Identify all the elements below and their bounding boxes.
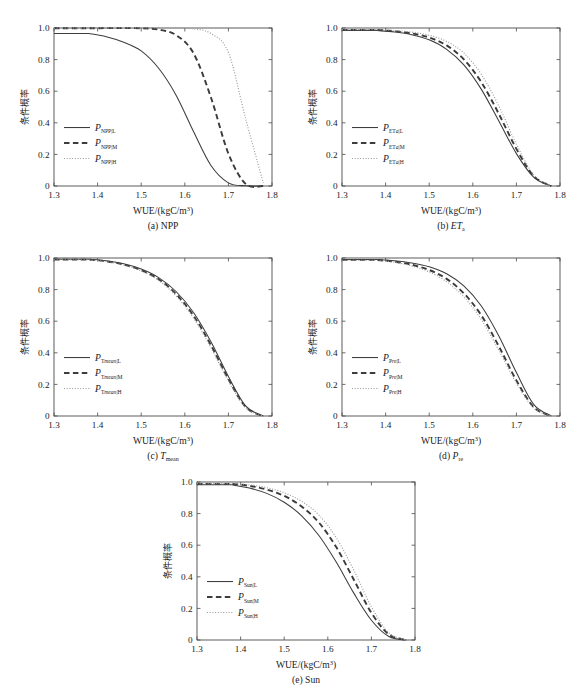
- x-tick-label: 1.4: [380, 420, 392, 430]
- x-tick-label: 1.6: [179, 190, 191, 200]
- legend-label: PETa|L: [382, 122, 404, 134]
- legend-label: PSun|L: [237, 576, 258, 588]
- x-tick-label: 1.8: [554, 190, 566, 200]
- panel-caption-d: (d) Pre: [439, 450, 463, 462]
- x-tick-label: 1.5: [135, 190, 147, 200]
- legend-label: PSun|H: [237, 607, 258, 619]
- curve-c-solid: [54, 259, 263, 416]
- legend-label: PNPP|M: [94, 137, 117, 149]
- y-tick-label: 0.4: [326, 118, 338, 128]
- x-tick-label: 1.8: [266, 420, 278, 430]
- x-tick-label: 1.3: [336, 420, 348, 430]
- plot-frame: [54, 258, 272, 416]
- x-tick-label: 1.7: [511, 420, 523, 430]
- x-tick-label: 1.6: [322, 644, 334, 654]
- curve-d-dashed: [342, 260, 551, 416]
- x-tick-label: 1.7: [511, 190, 523, 200]
- y-tick-label: 0.6: [326, 316, 338, 326]
- panel-caption-b: (b) ETa: [437, 220, 465, 232]
- x-tick-label: 1.5: [278, 644, 290, 654]
- legend-label: PTmean|L: [94, 352, 122, 364]
- legend-label: PPre|L: [382, 352, 402, 364]
- y-tick-label: 0.4: [326, 348, 338, 358]
- y-tick-label: 0.6: [181, 540, 193, 550]
- y-tick-label: 0: [45, 181, 50, 191]
- curve-b-solid: [342, 30, 551, 186]
- x-axis-title: WUE/(kgC/m3): [133, 205, 193, 217]
- legend-label: PNPP|H: [94, 153, 116, 165]
- x-tick-label: 1.3: [48, 420, 60, 430]
- x-tick-label: 1.4: [235, 644, 247, 654]
- plot-b: 1.31.41.51.61.71.800.20.40.60.81.0PETa|L…: [288, 8, 570, 230]
- x-tick-label: 1.3: [191, 644, 203, 654]
- y-tick-label: 1.0: [326, 253, 338, 263]
- curve-c-dotted: [54, 260, 263, 416]
- y-tick-label: 0.2: [326, 150, 338, 160]
- plot-a: 1.31.41.51.61.71.800.20.40.60.81.0PNPP|L…: [0, 8, 285, 230]
- plot-e: 1.31.41.51.61.71.800.20.40.60.81.0PSun|L…: [143, 462, 428, 684]
- x-tick-label: 1.7: [366, 644, 378, 654]
- chart-panel-a: 1.31.41.51.61.71.800.20.40.60.81.0PNPP|L…: [0, 8, 285, 230]
- curve-b-dotted: [342, 30, 551, 186]
- legend-label: PSun|M: [237, 591, 259, 603]
- x-tick-label: 1.5: [423, 420, 435, 430]
- legend-label: PETa|M: [382, 137, 405, 149]
- x-tick-label: 1.4: [92, 420, 104, 430]
- y-tick-label: 1.0: [38, 23, 50, 33]
- x-tick-label: 1.8: [266, 190, 278, 200]
- curve-d-solid: [342, 260, 551, 416]
- plot-c: 1.31.41.51.61.71.800.20.40.60.81.0PTmean…: [0, 238, 285, 460]
- x-axis-title: WUE/(kgC/m3): [421, 435, 481, 447]
- chart-panel-d: 1.31.41.51.61.71.800.20.40.60.81.0PPre|L…: [288, 238, 570, 460]
- x-tick-label: 1.6: [467, 420, 479, 430]
- x-tick-label: 1.5: [135, 420, 147, 430]
- x-tick-label: 1.4: [380, 190, 392, 200]
- legend-label: PPre|M: [382, 367, 403, 379]
- curve-a-solid: [54, 34, 263, 187]
- y-tick-label: 0.4: [181, 572, 193, 582]
- y-axis-title: 条件概率: [307, 89, 318, 125]
- x-tick-label: 1.8: [554, 420, 566, 430]
- x-axis-title: WUE/(kgC/m3): [421, 205, 481, 217]
- plot-frame: [342, 258, 560, 416]
- x-tick-label: 1.5: [423, 190, 435, 200]
- y-tick-label: 0.6: [326, 86, 338, 96]
- x-tick-label: 1.6: [179, 420, 191, 430]
- x-tick-label: 1.6: [467, 190, 479, 200]
- legend-label: PPre|H: [382, 383, 402, 395]
- y-tick-label: 0.4: [38, 118, 50, 128]
- y-tick-label: 0.8: [326, 55, 338, 65]
- chart-panel-e: 1.31.41.51.61.71.800.20.40.60.81.0PSun|L…: [143, 462, 428, 684]
- x-tick-label: 1.3: [48, 190, 60, 200]
- y-tick-label: 0.8: [38, 55, 50, 65]
- y-tick-label: 0: [45, 411, 50, 421]
- plot-frame: [54, 28, 272, 186]
- curve-d-dotted: [342, 260, 551, 416]
- chart-panel-c: 1.31.41.51.61.71.800.20.40.60.81.0PTmean…: [0, 238, 285, 460]
- y-tick-label: 1.0: [181, 477, 193, 487]
- curve-c-dashed: [54, 260, 263, 416]
- y-tick-label: 1.0: [326, 23, 338, 33]
- curve-e-dashed: [197, 484, 406, 640]
- panel-caption-e: (e) Sun: [292, 674, 320, 685]
- y-tick-label: 0.2: [326, 380, 338, 390]
- x-axis-title: WUE/(kgC/m3): [276, 659, 336, 671]
- y-axis-title: 条件概率: [162, 543, 173, 579]
- y-tick-label: 0: [333, 181, 338, 191]
- y-tick-label: 0: [188, 635, 193, 645]
- y-tick-label: 0.8: [38, 285, 50, 295]
- chart-panel-b: 1.31.41.51.61.71.800.20.40.60.81.0PETa|L…: [288, 8, 570, 230]
- y-tick-label: 1.0: [38, 253, 50, 263]
- y-tick-label: 0.6: [38, 86, 50, 96]
- y-tick-label: 0.8: [326, 285, 338, 295]
- y-axis-title: 条件概率: [19, 89, 30, 125]
- panel-caption-c: (c) Tmean: [147, 450, 178, 462]
- y-tick-label: 0.2: [38, 150, 50, 160]
- y-axis-title: 条件概率: [307, 319, 318, 355]
- y-tick-label: 0.8: [181, 509, 193, 519]
- legend-label: PETa|H: [382, 153, 404, 165]
- x-tick-label: 1.7: [223, 190, 235, 200]
- curve-b-dashed: [342, 30, 551, 186]
- y-tick-label: 0: [333, 411, 338, 421]
- x-tick-label: 1.4: [92, 190, 104, 200]
